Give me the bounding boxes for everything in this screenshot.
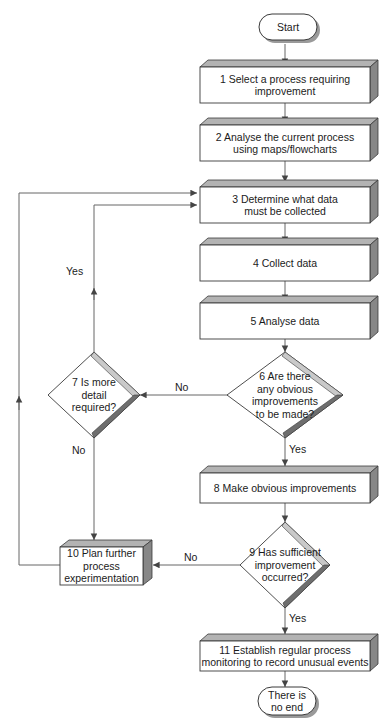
node-end[interactable] [258, 687, 319, 718]
flowchart-graphics [0, 0, 390, 727]
node-8-shape[interactable] [200, 466, 378, 503]
node-start[interactable] [259, 14, 320, 43]
node-1-shape[interactable] [200, 60, 378, 103]
flowchart-canvas: Start 1 Select a process requiring impro… [0, 0, 390, 727]
node-9-shape[interactable] [240, 522, 330, 608]
node-6-shape[interactable] [227, 352, 343, 438]
node-3-shape[interactable] [200, 180, 378, 223]
node-2-shape[interactable] [200, 118, 378, 161]
node-5-shape[interactable] [200, 296, 378, 339]
node-11-shape[interactable] [200, 634, 378, 671]
node-10-shape[interactable] [60, 540, 152, 585]
edge-7-yes-to-3 [94, 205, 197, 352]
node-7-shape[interactable] [48, 352, 140, 438]
node-4-shape[interactable] [200, 238, 378, 281]
